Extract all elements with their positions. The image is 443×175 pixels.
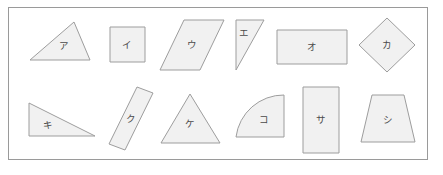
shape-group-shi[interactable]: シ <box>361 95 415 142</box>
shape-label-ka: カ <box>382 39 392 50</box>
shape-label-ko: コ <box>259 114 269 125</box>
shape-label-o: オ <box>307 41 317 52</box>
shape-label-ku: ク <box>126 113 136 124</box>
shape-group-ko[interactable]: コ <box>236 95 284 137</box>
shape-label-u: ウ <box>187 39 197 50</box>
worksheet-page: ア イ ウ エ オ カ キ ク <box>0 0 443 175</box>
shape-ki[interactable] <box>29 103 95 136</box>
shape-group-ke[interactable]: ケ <box>161 94 220 143</box>
shape-label-shi: シ <box>383 114 393 125</box>
shape-group-sa[interactable]: サ <box>303 87 339 153</box>
shape-group-i[interactable]: イ <box>110 27 145 62</box>
shape-label-ke: ケ <box>185 118 195 129</box>
shape-group-ku[interactable]: ク <box>109 87 153 150</box>
shapes-canvas: ア イ ウ エ オ カ キ ク <box>0 0 443 175</box>
shape-label-e: エ <box>239 27 249 38</box>
shape-group-ka[interactable]: カ <box>359 18 415 72</box>
shape-label-a: ア <box>59 40 69 51</box>
shape-group-o[interactable]: オ <box>277 30 347 64</box>
shape-label-ki: キ <box>43 119 53 130</box>
shape-group-e[interactable]: エ <box>236 20 264 70</box>
shape-group-u[interactable]: ウ <box>160 20 224 70</box>
shape-label-sa: サ <box>316 114 326 125</box>
shape-group-ki[interactable]: キ <box>29 103 95 136</box>
shape-label-i: イ <box>122 39 132 50</box>
shape-group-a[interactable]: ア <box>30 22 90 60</box>
